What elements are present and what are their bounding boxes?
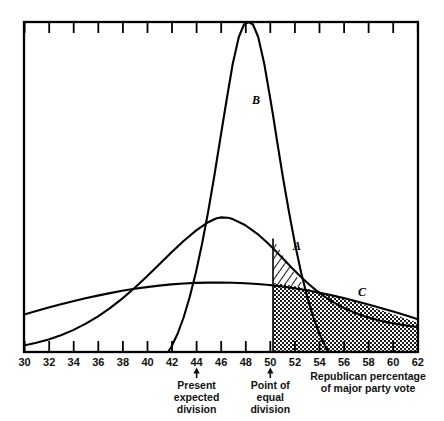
x-tick-label: 50: [264, 356, 276, 368]
point-of-equal-division-line1: Point of: [251, 379, 291, 391]
point-of-equal-division-line3: division: [250, 403, 290, 415]
x-axis-title-line1: Republican percentage: [310, 370, 426, 382]
present-expected-division-line2: expected: [174, 391, 220, 403]
present-expected-division-arrow-head: [193, 368, 199, 374]
x-tick-label: 58: [362, 356, 374, 368]
x-tick-label: 60: [387, 356, 399, 368]
present-expected-division-line1: Present: [177, 379, 216, 391]
shaded-areas: [273, 239, 418, 353]
x-tick-label: 38: [117, 356, 129, 368]
figure-container: 30 32 34 36 38 40 42 44 46 48 50 52 54 5…: [0, 0, 444, 421]
x-axis-ticks-top: [25, 22, 418, 33]
curve-label-c: C: [358, 285, 367, 299]
x-tick-label: 46: [215, 356, 227, 368]
curves: [24, 22, 418, 352]
x-tick-label: 44: [190, 356, 203, 368]
x-tick-label: 42: [166, 356, 178, 368]
curve-label-b: B: [251, 93, 260, 107]
point-of-equal-division-arrow-head: [267, 368, 273, 374]
annotation-point-of-equal-division: Point of equal division: [250, 368, 290, 416]
x-tick-label: 32: [43, 356, 55, 368]
x-tick-label: 36: [92, 356, 104, 368]
x-tick-label: 48: [240, 356, 252, 368]
annotation-present-expected-division: Present expected division: [174, 368, 220, 416]
x-axis-title-line2: of major party vote: [321, 382, 416, 394]
point-of-equal-division-line2: equal: [257, 391, 285, 403]
x-tick-label: 52: [289, 356, 301, 368]
x-tick-label: 56: [338, 356, 350, 368]
x-axis-title: Republican percentage of major party vot…: [310, 370, 426, 394]
curve-label-a: A: [292, 239, 301, 253]
x-tick-label: 30: [18, 356, 30, 368]
x-tick-labels: 30 32 34 36 38 40 42 44 46 48 50 52 54 5…: [18, 356, 423, 368]
x-tick-label: 62: [412, 356, 424, 368]
chart-svg: 30 32 34 36 38 40 42 44 46 48 50 52 54 5…: [0, 0, 444, 421]
x-tick-label: 54: [313, 356, 326, 368]
x-tick-label: 40: [141, 356, 153, 368]
x-tick-label: 34: [68, 356, 81, 368]
present-expected-division-line3: division: [177, 403, 217, 415]
